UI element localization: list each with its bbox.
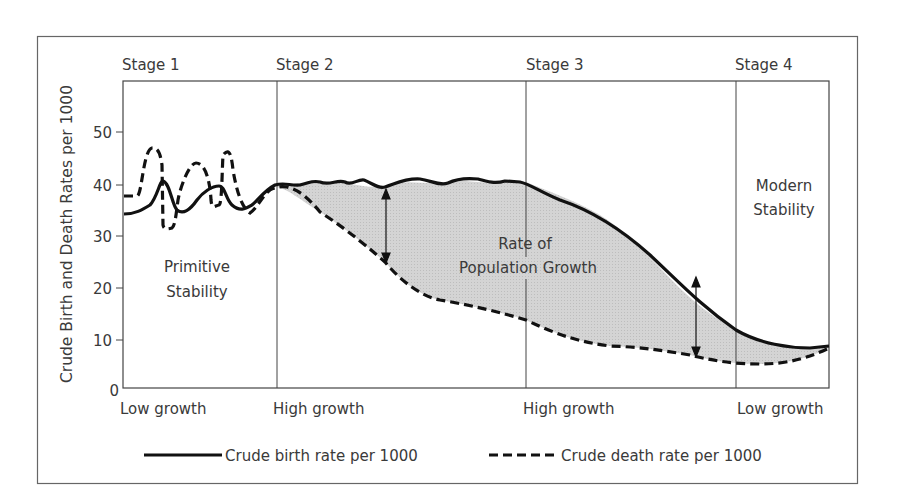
growth-label-stage4: Low growth <box>737 400 824 418</box>
y-axis-tick-labels: 50 40 30 20 10 0 <box>93 124 119 400</box>
y-axis-label: Crude Birth and Death Rates per 1000 <box>58 85 76 383</box>
growth-label-stage2: High growth <box>273 400 364 418</box>
stage-1-label: Stage 1 <box>122 56 180 74</box>
primitive-stability-line2: Stability <box>166 283 228 301</box>
y-axis-ticks <box>116 132 123 340</box>
ytick-0: 0 <box>109 382 119 400</box>
ytick-50: 50 <box>93 124 112 142</box>
rate-of-growth-line1: Rate of <box>498 235 552 253</box>
demographic-transition-chart: 50 40 30 20 10 0 Crude Birth and Death R… <box>0 0 897 500</box>
ytick-20: 20 <box>93 280 112 298</box>
stage-4-label: Stage 4 <box>735 56 793 74</box>
modern-stability-line2: Stability <box>753 201 815 219</box>
ytick-40: 40 <box>93 177 112 195</box>
ytick-10: 10 <box>93 332 112 350</box>
legend-death-label: Crude death rate per 1000 <box>561 447 762 465</box>
legend-birth-label: Crude birth rate per 1000 <box>225 447 418 465</box>
growth-label-stage3: High growth <box>523 400 614 418</box>
growth-label-stage1: Low growth <box>120 400 207 418</box>
modern-stability-line1: Modern <box>756 177 812 195</box>
rate-of-growth-line2: Population Growth <box>459 259 597 277</box>
ytick-30: 30 <box>93 228 112 246</box>
legend: Crude birth rate per 1000 Crude death ra… <box>144 447 762 465</box>
stage-3-label: Stage 3 <box>526 56 584 74</box>
primitive-stability-line1: Primitive <box>164 258 230 276</box>
stage-2-label: Stage 2 <box>276 56 334 74</box>
